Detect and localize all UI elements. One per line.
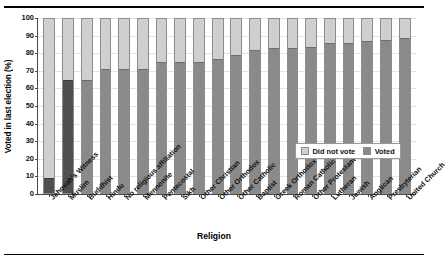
- stacked-bar[interactable]: [212, 18, 224, 194]
- y-tick-label: 60: [26, 85, 34, 93]
- y-tick-label: 40: [26, 120, 34, 128]
- stacked-bar[interactable]: [43, 18, 55, 194]
- y-tick-label: 20: [26, 155, 34, 163]
- bar-group[interactable]: [358, 18, 377, 194]
- bar-segment-did-not-vote: [288, 19, 298, 48]
- bar-segment-voted: [381, 40, 391, 193]
- legend-label: Did not vote: [313, 147, 356, 156]
- bar-segment-did-not-vote: [400, 19, 410, 38]
- y-tick-label: 90: [26, 32, 34, 40]
- bar-segment-did-not-vote: [101, 19, 111, 69]
- stacked-bar[interactable]: [287, 18, 299, 194]
- bar-segment-voted: [119, 69, 129, 193]
- stacked-bar[interactable]: [174, 18, 186, 194]
- bar-segment-did-not-vote: [344, 19, 354, 43]
- y-tick-label: 100: [21, 14, 34, 22]
- bar-segment-did-not-vote: [231, 19, 241, 55]
- x-axis-title: Religion: [0, 231, 428, 241]
- bar-group[interactable]: [40, 18, 59, 194]
- bar-segment-did-not-vote: [63, 19, 73, 80]
- legend-entry[interactable]: Voted: [363, 147, 394, 156]
- bar-segment-did-not-vote: [82, 19, 92, 80]
- chart-legend: Did not voteVoted: [295, 143, 401, 159]
- y-tick-mark: [35, 194, 38, 195]
- legend-entry[interactable]: Did not vote: [301, 147, 355, 156]
- stacked-bar[interactable]: [118, 18, 130, 194]
- legend-swatch-didnotvote: [301, 147, 309, 155]
- bar-segment-did-not-vote: [194, 19, 204, 62]
- bar-segment-voted: [400, 38, 410, 193]
- bar-segment-voted: [362, 41, 372, 193]
- stacked-bar[interactable]: [399, 18, 411, 194]
- bar-segment-did-not-vote: [325, 19, 335, 43]
- top-divider-rule: [4, 6, 424, 8]
- bar-segment-did-not-vote: [157, 19, 167, 62]
- stacked-bar[interactable]: [361, 18, 373, 194]
- bar-segment-did-not-vote: [44, 19, 54, 178]
- stacked-bar[interactable]: [137, 18, 149, 194]
- bar-group[interactable]: [377, 18, 396, 194]
- legend-swatch-voted: [363, 147, 371, 155]
- stacked-bar[interactable]: [193, 18, 205, 194]
- stacked-bar[interactable]: [62, 18, 74, 194]
- y-tick-label: 80: [26, 49, 34, 57]
- bar-segment-did-not-vote: [213, 19, 223, 59]
- bar-segment-did-not-vote: [250, 19, 260, 50]
- bar-group[interactable]: [96, 18, 115, 194]
- bar-group[interactable]: [171, 18, 190, 194]
- bar-segment-did-not-vote: [138, 19, 148, 69]
- stacked-bar[interactable]: [100, 18, 112, 194]
- y-axis-title: Voted in last election (%): [2, 18, 16, 195]
- bar-segment-did-not-vote: [381, 19, 391, 40]
- legend-label: Voted: [375, 147, 395, 156]
- bar-group[interactable]: [395, 18, 414, 194]
- y-axis-title-text: Voted in last election (%): [5, 60, 14, 154]
- y-tick-label: 30: [26, 137, 34, 145]
- bar-segment-did-not-vote: [362, 19, 372, 41]
- bar-group[interactable]: [190, 18, 209, 194]
- bar-segment-did-not-vote: [175, 19, 185, 62]
- bar-segment-did-not-vote: [269, 19, 279, 48]
- y-tick-label: 10: [26, 173, 34, 181]
- y-tick-label: 0: [30, 190, 34, 198]
- y-tick-label: 70: [26, 67, 34, 75]
- bar-segment-voted: [82, 80, 92, 193]
- bottom-divider-rule: [4, 254, 424, 256]
- y-tick-label: 50: [26, 102, 34, 110]
- bar-segment-did-not-vote: [306, 19, 316, 47]
- stacked-bar[interactable]: [380, 18, 392, 194]
- bar-group[interactable]: [115, 18, 134, 194]
- bar-segment-did-not-vote: [119, 19, 129, 69]
